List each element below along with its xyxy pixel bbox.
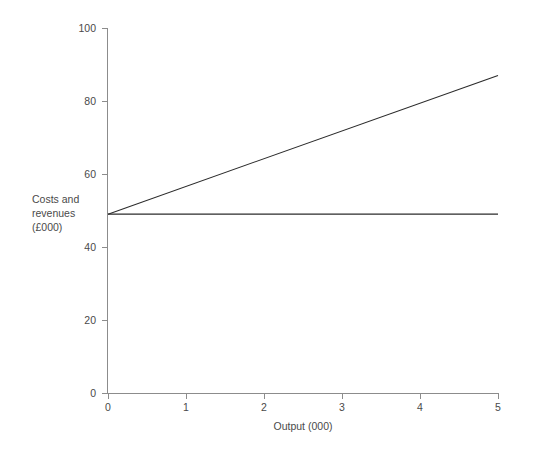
- chart-figure: 0 20 40 60 80 100 0 1 2 3 4 5 Costs and …: [0, 0, 560, 457]
- series-layer: [0, 0, 560, 457]
- plot-area: 0 20 40 60 80 100 0 1 2 3 4 5 Costs and …: [0, 0, 560, 457]
- series-line-total-revenue: [108, 75, 498, 214]
